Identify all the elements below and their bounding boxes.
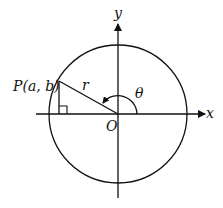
y-axis-label: y bbox=[113, 5, 123, 21]
origin-label: O bbox=[106, 118, 118, 134]
unit-circle-diagram: y x O P(a, b) r θ bbox=[0, 0, 223, 208]
right-angle-marker bbox=[59, 106, 67, 114]
angle-arc bbox=[103, 96, 137, 114]
point-label: P(a, b) bbox=[12, 78, 60, 94]
radius-label: r bbox=[82, 77, 90, 93]
x-axis-label: x bbox=[206, 105, 214, 121]
angle-label: θ bbox=[135, 85, 144, 101]
